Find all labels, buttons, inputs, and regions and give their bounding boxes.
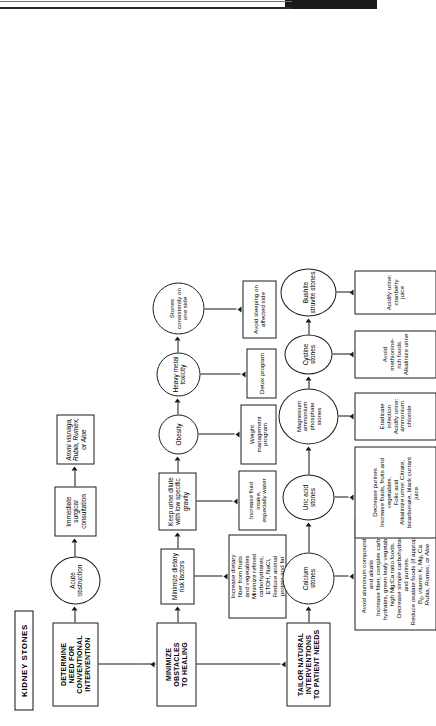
node-bushite-struvite-stones: Bushite struvite stones (280, 268, 336, 316)
treatment-magnesium-stones: Eradicate infectionAcidify urine: ammoni… (354, 392, 436, 440)
arrow-urine-up (233, 498, 237, 504)
node-keep-urine-dilute-label: Keep urine dilute with low specific grav… (165, 475, 189, 528)
node-cystine-stones: Cystine stones (284, 334, 332, 374)
link-mag-to-cystine (308, 380, 309, 388)
arrow-urine-to-obesity (174, 456, 180, 460)
link-obesity-up (198, 433, 234, 434)
node-acute-obstruction: Acute obstruction (50, 556, 100, 604)
arrow-minimize-to-dietary (174, 606, 180, 610)
treatment-bushite-stones: Acidify urine: cranberry juice (354, 270, 436, 314)
action-dietary-fiber-label: Increase dietary fiber from fruits and v… (228, 551, 286, 600)
link-dietary-up (194, 575, 222, 576)
link-urine-to-obesity (177, 460, 178, 472)
link-calcium-up (334, 575, 348, 576)
treatment-uric-acid-stones-text: Decrease purinesIncrease fluids, fruits … (370, 447, 421, 537)
stage-minimize-obstacles: MINIMIZE OBSTACLES TO HEALING (156, 622, 196, 706)
link-determine-to-acute (74, 610, 75, 622)
stage-spine-2 (196, 663, 280, 664)
link-cystine-to-bushite (308, 322, 309, 334)
arrow-dietary-to-urine (174, 532, 180, 536)
arrow-determine-to-acute (71, 606, 77, 610)
node-stones-one-side-label: Stones consistently on one side (167, 286, 190, 331)
arrow-mag-up (349, 413, 353, 419)
link-obesity-to-metal (177, 402, 178, 414)
node-acute-obstruction-label: Acute obstruction (67, 562, 84, 598)
action-avoid-sleeping: Avoid sleeping on affected side (242, 280, 276, 338)
treatment-cystine-stones: Avoid methionine-rich foods.Alkalinize u… (354, 330, 436, 378)
arrow-side-up (237, 306, 241, 312)
arrow-calcium-to-uric (305, 522, 311, 526)
treatment-uric-acid-stones: Decrease purinesIncrease fluids, fruits … (354, 446, 436, 538)
node-uric-acid-stones: Uric acid stones (282, 474, 334, 520)
node-heavy-metal-toxicity-label: Heavy metal toxicity (170, 354, 187, 394)
node-cystine-stones-label: Cystine stones (300, 341, 317, 367)
action-dietary-fiber: Increase dietary fiber from fruits and v… (228, 534, 286, 618)
node-calcium-stones-label: Calcium stones (300, 564, 317, 591)
node-bushite-struvite-label: Bushite struvite stones (300, 269, 317, 315)
link-dietary-to-urine (177, 536, 178, 548)
stage-determine-label: DETERMINE NEED FOR CONVENTIONAL INTERVEN… (58, 633, 91, 695)
action-increase-fluid-label: Increase fluid intake, especially water (246, 471, 269, 529)
node-obesity-label: Obesity (173, 421, 182, 447)
node-stones-one-side: Stones consistently on one side (152, 282, 204, 334)
node-minimize-dietary-risk: Minimize dietary risk factors (160, 548, 194, 604)
arrow-metal-up (241, 371, 245, 377)
node-heavy-metal-toxicity: Heavy metal toxicity (156, 352, 200, 396)
action-increase-fluid: Increase fluid intake, especially water (238, 470, 276, 530)
link-mag-up (338, 415, 350, 416)
node-magnesium-ammonium-phosphate-label: Magnesium ammonium phosphate stones (294, 399, 323, 434)
node-herbal-options-label: Ammi visnaga, Rubia, Rumex, or Aloe (63, 416, 87, 463)
node-herbal-options: Ammi visnaga, Rubia, Rumex, or Aloe (56, 414, 94, 464)
arrow-obesity-up (235, 431, 239, 437)
link-bushite-up (336, 291, 350, 292)
link-acute-to-surgical (74, 542, 75, 556)
node-uric-acid-stones-label: Uric acid stones (300, 482, 317, 511)
treatment-bushite-stones-text: Acidify urine: cranberry juice (384, 271, 407, 313)
treatment-magnesium-stones-text: Eradicate infectionAcidify urine: ammoni… (377, 393, 414, 439)
arrow-uric-up (349, 494, 353, 500)
arrow-surgical-to-herbs (71, 466, 77, 470)
arrow-uric-to-mag (305, 446, 311, 450)
link-calcium-to-uric (308, 526, 309, 552)
action-weight-management-label: Weight management program (247, 405, 270, 463)
stage-spine-1 (98, 663, 139, 664)
action-weight-management: Weight management program (240, 404, 276, 464)
stage-spine-arrow-2 (281, 661, 285, 667)
page-title: KIDNEY STONES (19, 624, 28, 697)
link-tailor-to-calcium (308, 610, 309, 622)
action-avoid-sleeping-label: Avoid sleeping on affected side (251, 283, 267, 336)
link-uric-to-mag (308, 450, 309, 474)
node-minimize-dietary-risk-label: Minimize dietary risk factors (169, 551, 186, 602)
node-obesity: Obesity (158, 414, 198, 454)
link-uric-up (334, 496, 348, 497)
action-detox-program-label: Detox program (257, 351, 266, 396)
link-urine-up (196, 500, 232, 501)
action-detox-program: Detox program (246, 348, 276, 398)
node-surgical-consultation: Immediate surgical consultation (54, 486, 96, 536)
arrow-metal-to-side (174, 336, 180, 340)
node-magnesium-ammonium-phosphate-stones: Magnesium ammonium phosphate stones (278, 388, 338, 444)
node-calcium-stones: Calcium stones (282, 552, 334, 604)
link-metal-to-side (177, 340, 178, 352)
stage-determine-need: DETERMINE NEED FOR CONVENTIONAL INTERVEN… (52, 622, 98, 706)
chart-title-box: KIDNEY STONES (14, 610, 33, 710)
link-minimize-to-dietary (177, 610, 178, 622)
arrow-mag-to-cystine (305, 376, 311, 380)
arrow-obesity-to-metal (174, 398, 180, 402)
arrow-bushite-up (349, 289, 353, 295)
arrow-calcium-up (349, 573, 353, 579)
stage-tailor-interventions: TAILOR NATURAL INTERVENTIONS TO PATIENT … (286, 622, 330, 706)
arrow-cystine-up (349, 351, 353, 357)
link-side-up (204, 308, 236, 309)
node-keep-urine-dilute: Keep urine dilute with low specific grav… (158, 472, 196, 530)
arrow-tailor-to-calcium (305, 606, 311, 610)
node-surgical-consultation-label: Immediate surgical consultation (63, 492, 87, 531)
stage-tailor-label: TAILOR NATURAL INTERVENTIONS TO PATIENT … (295, 627, 320, 701)
arrow-dietary-up (223, 573, 227, 579)
stage-spine-1b (139, 663, 155, 664)
link-cystine-up (332, 353, 350, 354)
stage-minimize-label: MINIMIZE OBSTACLES TO HEALING (163, 639, 188, 688)
treatment-cystine-stones-text: Avoid methionine-rich foods.Alkalinize u… (380, 331, 410, 377)
arrow-acute-to-surgical (71, 538, 77, 542)
